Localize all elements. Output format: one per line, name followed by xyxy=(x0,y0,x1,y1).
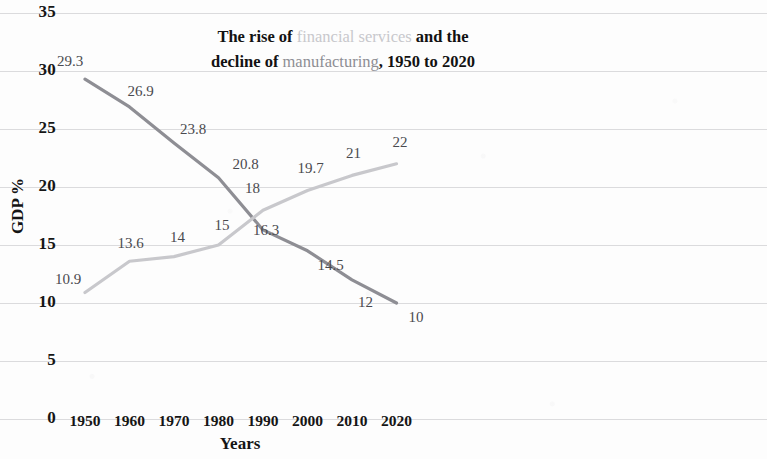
data-point-label: 16.3 xyxy=(253,222,279,239)
data-point-label: 29.3 xyxy=(57,53,83,70)
data-point-label: 10 xyxy=(409,309,424,326)
data-point-label: 18 xyxy=(245,180,260,197)
chart-page: 35302520151050 The rise of financial ser… xyxy=(0,0,767,459)
data-point-label: 20.8 xyxy=(233,156,259,173)
y-axis-title: GDP % xyxy=(8,166,28,246)
data-point-label: 13.6 xyxy=(118,235,144,252)
data-point-label: 23.8 xyxy=(180,121,206,138)
data-point-label: 14 xyxy=(170,229,185,246)
data-point-label: 12 xyxy=(358,294,373,311)
x-axis-tick-label: 2020 xyxy=(367,412,427,430)
x-axis-title: Years xyxy=(180,434,300,454)
data-point-label: 19.7 xyxy=(298,160,324,177)
data-point-label: 15 xyxy=(215,217,230,234)
data-point-label: 26.9 xyxy=(128,83,154,100)
plot-area xyxy=(0,0,767,459)
data-point-label: 21 xyxy=(346,145,361,162)
series-line-financial-services xyxy=(85,164,397,293)
series-line-manufacturing xyxy=(85,79,397,303)
data-point-label: 14.5 xyxy=(318,257,344,274)
data-point-label: 10.9 xyxy=(55,271,81,288)
data-point-label: 22 xyxy=(393,134,408,151)
